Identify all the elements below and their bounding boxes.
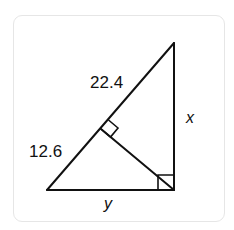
hypotenuse [47, 43, 174, 190]
altitude [101, 129, 174, 190]
label-x: x [185, 109, 195, 126]
triangle-diagram: 22.4 12.6 x y [0, 0, 234, 230]
label-upper-segment: 22.4 [90, 73, 123, 92]
label-y: y [103, 195, 113, 212]
label-lower-segment: 12.6 [29, 142, 62, 161]
right-angle-marker-altitude-foot [101, 120, 118, 137]
